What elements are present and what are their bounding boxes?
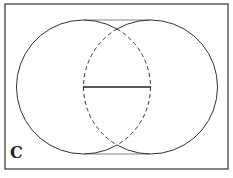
two-circles-diagram (0, 0, 233, 178)
figure-label: C (10, 143, 23, 162)
